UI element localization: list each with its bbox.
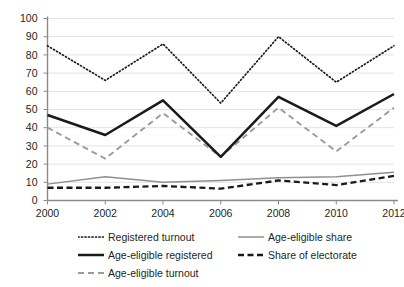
gridlines (48, 19, 395, 201)
legend-item-label: Registered turnout (108, 232, 194, 243)
legend-swatch-age-eligible-registered (78, 250, 104, 260)
x-tick-label: 2000 (36, 207, 60, 219)
x-tick-label: 2006 (209, 207, 233, 219)
legend-item-age-eligible-registered[interactable]: Age-eligible registered (78, 246, 212, 264)
legend-item-registered-turnout[interactable]: Registered turnout (78, 228, 212, 246)
y-tick-label: 50 (26, 103, 38, 115)
x-tick-label: 2002 (94, 207, 118, 219)
y-tick-label: 100 (20, 12, 38, 24)
y-tick-label: 0 (32, 194, 38, 206)
x-tick-label: 2008 (267, 207, 291, 219)
x-tick-label: 2004 (151, 207, 175, 219)
y-tick-label: 20 (26, 158, 38, 170)
legend-swatch-age-eligible-share (238, 232, 264, 242)
y-tick-label: 30 (26, 140, 38, 152)
chart-legend: Registered turnoutAge-eligible registere… (0, 228, 404, 287)
y-tick-label: 90 (26, 30, 38, 42)
x-tick-label: 2010 (325, 207, 349, 219)
legend-item-label: Age-eligible registered (108, 250, 212, 261)
legend-swatch-registered-turnout (78, 232, 104, 242)
y-axis-tick-labels: 0102030405060708090100 (20, 12, 38, 206)
y-tick-label: 80 (26, 49, 38, 61)
legend-swatch-share-of-electorate (238, 250, 264, 260)
x-tick-label: 2012 (382, 207, 404, 219)
y-tick-label: 40 (26, 121, 38, 133)
legend-item-label: Age-eligible turnout (108, 268, 198, 279)
x-axis-tick-labels: 2000200220042006200820102012 (36, 207, 404, 219)
legend-swatch-age-eligible-turnout (78, 268, 104, 278)
series-line-registered-turnout (48, 37, 395, 103)
series-layer (48, 37, 395, 189)
legend-item-share-of-electorate[interactable]: Share of electorate (238, 246, 357, 264)
y-tick-label: 60 (26, 85, 38, 97)
y-tick-label: 70 (26, 67, 38, 79)
legend-item-label: Share of electorate (268, 250, 357, 261)
legend-item-age-eligible-turnout[interactable]: Age-eligible turnout (78, 264, 212, 282)
legend-column-1: Registered turnoutAge-eligible registere… (78, 228, 212, 282)
legend-item-age-eligible-share[interactable]: Age-eligible share (238, 228, 357, 246)
legend-item-label: Age-eligible share (268, 232, 352, 243)
chart-container: 0102030405060708090100 20002002200420062… (0, 0, 404, 287)
y-tick-label: 10 (26, 176, 38, 188)
legend-column-2: Age-eligible shareShare of electorate (238, 228, 357, 264)
